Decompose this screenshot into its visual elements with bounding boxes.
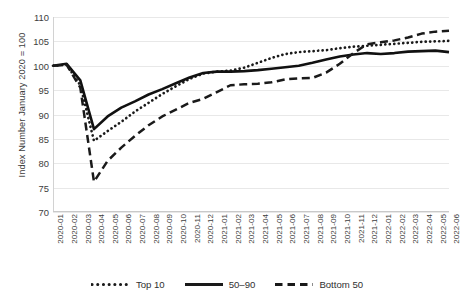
legend-item[interactable]: Bottom 50 xyxy=(274,279,363,290)
x-axis-tick-label: 2020-09 xyxy=(165,214,174,244)
chart-legend: Top 1050–90Bottom 50 xyxy=(0,273,454,295)
y-axis-tick-label: 100 xyxy=(9,60,49,71)
y-axis-tick-label: 75 xyxy=(9,182,49,193)
x-axis-tick-label: 2021-03 xyxy=(247,214,256,244)
y-axis-tick-label: 80 xyxy=(9,158,49,169)
x-axis-tick-label: 2021-12 xyxy=(370,214,379,244)
legend-item[interactable]: 50–90 xyxy=(184,279,256,290)
x-axis-tick-label: 2021-11 xyxy=(357,214,366,243)
x-axis-tick-label: 2022-04 xyxy=(425,214,434,244)
x-axis-tick-label: 2021-01 xyxy=(220,214,229,244)
x-axis-tick-labels: 2020-012020-022020-032020-042020-052020-… xyxy=(53,214,449,270)
x-axis-tick-label: 2022-06 xyxy=(452,214,461,244)
y-axis-tick-labels: 110105100959085807570 xyxy=(5,17,49,212)
y-axis-tick-label: 85 xyxy=(9,133,49,144)
series-line xyxy=(53,51,449,129)
x-axis-tick-label: 2020-11 xyxy=(193,214,202,243)
x-axis-tick-label: 2020-05 xyxy=(111,214,120,244)
series-line xyxy=(53,41,449,141)
legend-label: Bottom 50 xyxy=(319,279,363,290)
x-axis-tick-label: 2021-06 xyxy=(288,214,297,244)
x-axis-tick-label: 2021-08 xyxy=(316,214,325,244)
x-axis-tick-label: 2022-01 xyxy=(384,214,393,244)
x-axis-tick-label: 2021-02 xyxy=(234,214,243,244)
x-axis-tick-label: 2021-10 xyxy=(343,214,352,244)
y-axis-tick-label: 90 xyxy=(9,109,49,120)
x-axis-tick-label: 2020-03 xyxy=(84,214,93,244)
y-axis-tick-label: 105 xyxy=(9,36,49,47)
x-axis-tick-label: 2020-02 xyxy=(70,214,79,244)
y-axis-tick-label: 110 xyxy=(9,12,49,23)
x-axis-tick-label: 2020-10 xyxy=(179,214,188,244)
x-axis-tick-label: 2021-05 xyxy=(275,214,284,244)
legend-item[interactable]: Top 10 xyxy=(91,279,165,290)
x-axis-tick-label: 2020-04 xyxy=(97,214,106,244)
legend-swatch-solid-icon xyxy=(184,279,224,290)
x-axis-tick-label: 2022-03 xyxy=(411,214,420,244)
legend-swatch-dashed-icon xyxy=(274,279,314,290)
legend-label: Top 10 xyxy=(136,279,165,290)
x-axis-tick-label: 2022-02 xyxy=(398,214,407,244)
legend-swatch-dotted-icon xyxy=(91,279,131,290)
y-axis-tick-label: 70 xyxy=(9,207,49,218)
legend-label: 50–90 xyxy=(229,279,256,290)
x-axis-tick-label: 2021-07 xyxy=(302,214,311,244)
x-axis-tick-label: 2021-04 xyxy=(261,214,270,244)
series-layer xyxy=(53,17,449,212)
x-axis-tick-label: 2020-12 xyxy=(206,214,215,244)
x-axis-tick-label: 2020-07 xyxy=(138,214,147,244)
plot-area xyxy=(53,17,449,212)
x-axis-tick-label: 2020-08 xyxy=(152,214,161,244)
y-axis-tick-label: 95 xyxy=(9,85,49,96)
x-axis-tick-label: 2021-09 xyxy=(329,214,338,244)
x-axis-tick-label: 2020-01 xyxy=(56,214,65,244)
x-axis-tick-label: 2022-05 xyxy=(439,214,448,244)
x-axis-tick-label: 2020-06 xyxy=(124,214,133,244)
